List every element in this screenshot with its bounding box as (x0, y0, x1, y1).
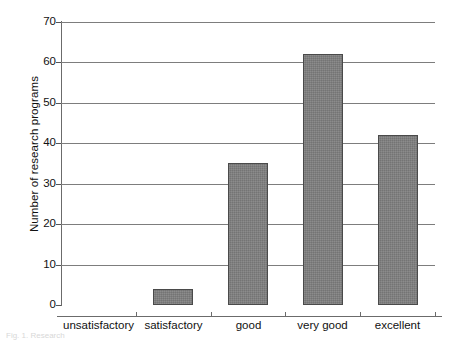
x-axis-category-label: very good (285, 319, 360, 332)
figure-caption: Fig. 1. Research (6, 331, 246, 340)
plot-area (61, 22, 435, 305)
x-axis-tick-mark (435, 312, 436, 317)
y-axis-tick-label: 70 (30, 16, 56, 28)
y-axis-tick-mark (56, 224, 61, 225)
x-axis-tick-mark (360, 312, 361, 317)
x-axis-tick-mark (211, 312, 212, 317)
y-axis-tick-mark (56, 184, 61, 185)
y-axis-tick-label: 0 (30, 299, 56, 311)
bar[interactable] (228, 163, 268, 305)
y-axis-tick-mark (56, 62, 61, 63)
y-axis-tick-label: 50 (30, 97, 56, 109)
bar[interactable] (153, 289, 193, 305)
bar-chart: Number of research programs 010203040506… (0, 0, 451, 341)
bar[interactable] (378, 135, 418, 305)
y-axis-tick-mark (56, 305, 61, 306)
gridline (61, 62, 435, 63)
x-axis-tick-mark (136, 312, 137, 317)
y-axis-tick-label: 20 (30, 218, 56, 230)
y-axis-tick-label: 40 (30, 137, 56, 149)
x-axis-tick-mark (285, 312, 286, 317)
y-axis-tick-labels: 010203040506070 (28, 0, 56, 341)
y-axis-tick-mark (56, 265, 61, 266)
x-axis-category-label: excellent (360, 319, 435, 332)
y-axis-tick-mark (56, 22, 61, 23)
gridline (61, 22, 435, 23)
y-axis-tick-label: 60 (30, 56, 56, 68)
gridline (61, 103, 435, 104)
bar[interactable] (303, 54, 343, 305)
y-axis-tick-mark (56, 143, 61, 144)
y-axis-tick-mark (56, 103, 61, 104)
y-axis-tick-label: 10 (30, 259, 56, 271)
y-axis-tick-label: 30 (30, 178, 56, 190)
